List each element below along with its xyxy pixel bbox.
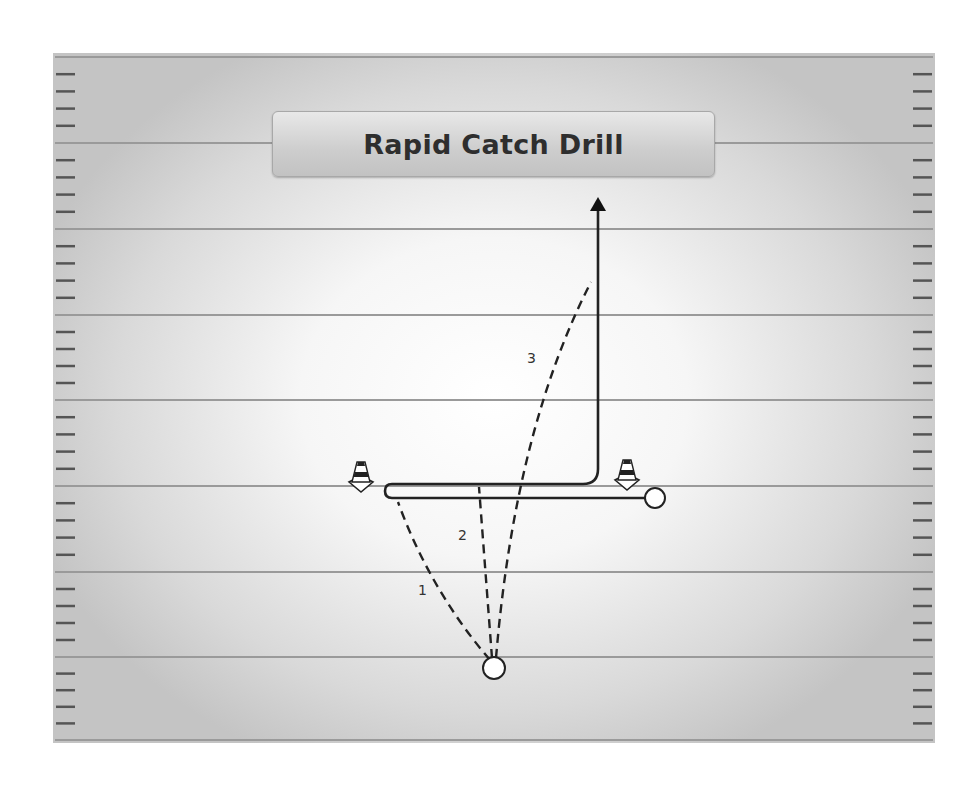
throw-label-1: 1 xyxy=(418,582,427,598)
receiver-route xyxy=(385,208,645,498)
drill-title: Rapid Catch Drill xyxy=(363,129,623,160)
throw-line-3 xyxy=(496,282,591,658)
throw-line-1 xyxy=(398,502,490,660)
title-banner: Rapid Catch Drill xyxy=(272,111,715,177)
throw-label-3: 3 xyxy=(527,350,536,366)
route-arrowhead-icon xyxy=(590,197,606,211)
receiver-player xyxy=(645,488,665,508)
throw-label-2: 2 xyxy=(458,527,467,543)
quarterback-player xyxy=(483,657,505,679)
cone-left-icon xyxy=(349,462,373,492)
